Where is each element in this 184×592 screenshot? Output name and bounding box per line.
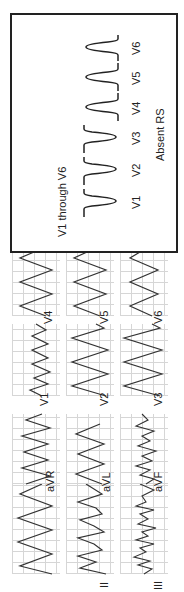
ecg-trace-V4 [12, 244, 60, 316]
schematic-lead-V4: V4 [130, 102, 142, 115]
lead-label-V5: V5 [98, 311, 110, 324]
lead-label-V4: V4 [42, 311, 54, 324]
ecg-trace-V1 [12, 324, 60, 396]
lead-label-V2: V2 [98, 393, 110, 406]
ecg-trace-I [12, 484, 60, 574]
schematic-lead-V2: V2 [130, 164, 142, 177]
schematic-lead-V3: V3 [130, 132, 142, 145]
schematic-lead-V1: V1 [130, 196, 142, 209]
rotated-figure: II III aVR aVL aVF V1 V2 [0, 0, 184, 592]
schematic-caption: Absent RS [154, 108, 166, 161]
lead-label-aVL: aVL [100, 472, 112, 492]
lead-label-V3: V3 [152, 393, 164, 406]
schematic-complexes [82, 37, 122, 217]
ecg-trace-II [66, 484, 114, 574]
schematic-lead-V6: V6 [130, 42, 142, 55]
schematic-title: V1 through V6 [56, 167, 68, 237]
ecg-trace-V5 [66, 244, 114, 316]
lead-label-aVF: aVF [152, 472, 164, 492]
lead-label-III: III [152, 581, 164, 590]
ecg-trace-V6 [120, 244, 168, 316]
schematic-lead-V5: V5 [130, 72, 142, 85]
ecg-trace-V2 [66, 324, 114, 396]
lead-label-II: II [98, 582, 110, 588]
ecg-trace-III [120, 484, 168, 574]
lead-label-aVR: aVR [44, 471, 56, 492]
ecg-trace-V3 [120, 324, 168, 396]
ecg-12-lead-panel: II III aVR aVL aVF V1 V2 [0, 262, 184, 592]
lead-label-V6: V6 [152, 311, 164, 324]
lead-label-V1: V1 [38, 393, 50, 406]
schematic-box: V1 through V6 V1 V2 V3 V4 V5 V6 Absent R… [10, 13, 178, 253]
